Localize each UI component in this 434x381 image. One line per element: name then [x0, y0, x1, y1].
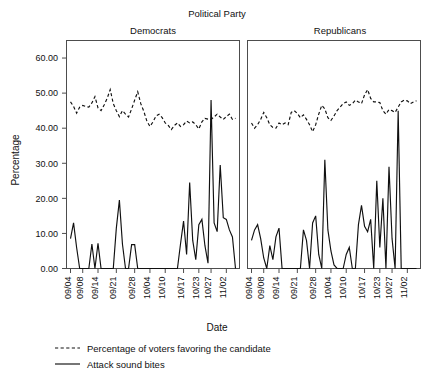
x-tick-label: 10/23: [191, 277, 201, 300]
x-tick-label: 09/04: [244, 277, 254, 300]
panel-title-democrats: Democrats: [130, 25, 176, 36]
y-axis-label: Percentage: [10, 134, 21, 186]
x-tick-label: 09/14: [90, 277, 100, 300]
y-tick-label: 40.00: [35, 123, 58, 133]
y-tick-label: 50.00: [35, 88, 58, 98]
x-tick-label: 09/08: [75, 277, 85, 300]
x-tick-label: 10/10: [338, 277, 348, 300]
y-tick-label: 10.00: [35, 229, 58, 239]
x-tick-label: 11/02: [399, 277, 409, 299]
chart-legend: Percentage of voters favoring the candid…: [55, 343, 271, 370]
panel-republicans: 09/0409/0809/1409/2109/2810/0410/1010/17…: [244, 41, 421, 300]
x-tick-label: 09/14: [271, 277, 281, 300]
legend-label-voters: Percentage of voters favoring the candid…: [87, 343, 271, 354]
chart-title: Political Party: [188, 8, 246, 19]
x-tick-label: 10/04: [323, 277, 333, 300]
x-tick-label: 09/21: [289, 277, 299, 300]
panel-frame-democrats: [67, 41, 240, 269]
y-tick-label: 60.00: [35, 53, 58, 63]
y-axis: 0.0010.0020.0030.0040.0050.0060.00: [35, 53, 66, 273]
x-tick-label: 10/17: [357, 277, 367, 300]
x-tick-label: 10/27: [384, 277, 394, 300]
x-tick-label: 09/21: [108, 277, 118, 300]
y-tick-label: 20.00: [35, 194, 58, 204]
x-tick-label: 09/28: [308, 277, 318, 300]
political-party-line-chart: Political Party Democrats Republicans Pe…: [0, 0, 434, 381]
x-tick-label: 09/08: [256, 277, 266, 300]
chart-figure: Political Party Democrats Republicans Pe…: [0, 0, 434, 381]
x-axis-republicans: 09/0409/0809/1409/2109/2810/0410/1010/17…: [244, 269, 410, 300]
legend-label-attacks: Attack sound bites: [87, 359, 165, 370]
series-line-attacks-republicans: [252, 111, 417, 269]
x-tick-label: 10/17: [176, 277, 186, 300]
x-tick-label: 11/02: [218, 277, 228, 299]
x-tick-label: 09/04: [63, 277, 73, 300]
x-axis-democrats: 09/0409/0809/1409/2109/2810/0410/1010/17…: [63, 269, 229, 300]
panel-title-republicans: Republicans: [314, 25, 367, 36]
x-tick-label: 09/28: [127, 277, 137, 300]
series-line-voters-republicans: [252, 90, 417, 132]
x-tick-label: 10/27: [203, 277, 213, 300]
y-tick-label: 0.00: [40, 264, 58, 274]
panel-democrats: 09/0409/0809/1409/2109/2810/0410/1010/17…: [63, 41, 240, 300]
x-tick-label: 10/04: [142, 277, 152, 300]
panel-frame-republicans: [248, 41, 421, 269]
x-tick-label: 10/23: [372, 277, 382, 300]
series-line-attacks-democrats: [71, 100, 236, 268]
y-tick-label: 30.00: [35, 159, 58, 169]
x-tick-label: 10/10: [157, 277, 167, 300]
x-axis-label: Date: [206, 322, 228, 333]
